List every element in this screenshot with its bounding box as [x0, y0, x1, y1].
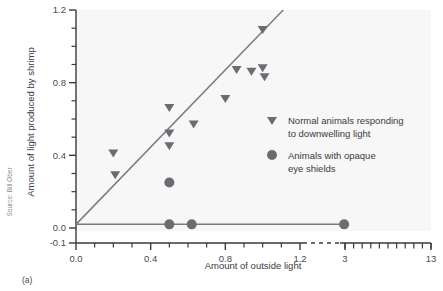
legend-label-line2: to downwelling light	[288, 128, 371, 139]
y-axis-tick-label: 0.4	[53, 150, 66, 161]
legend-label-line1: Normal animals responding	[288, 115, 404, 126]
x-axis-title: Amount of outside light	[205, 260, 302, 271]
x-axis-tick-label: 13	[426, 253, 437, 264]
legend-label-line1: Animals with opaque	[288, 150, 376, 161]
y-axis-tick-label: 0.0	[53, 222, 66, 233]
legend-label-line2: eye shields	[288, 163, 336, 174]
data-point-circle	[339, 219, 349, 229]
y-axis-tick-label: -0.1	[50, 237, 66, 248]
y-axis-tick-label: 0.8	[53, 77, 66, 88]
data-point-circle	[164, 219, 174, 229]
y-axis-title: Amount of light produced by shrimp	[25, 47, 36, 196]
scatter-plot: -0.10.00.40.81.20.00.40.81.2313 Amount o…	[0, 0, 443, 291]
x-axis-tick-label: 3	[342, 253, 347, 264]
y-axis-tick-label: 1.2	[53, 4, 66, 15]
figure-container: -0.10.00.40.81.20.00.40.81.2313 Amount o…	[0, 0, 443, 291]
x-axis-tick-label: 0.4	[144, 253, 157, 264]
source-credit: Source: Bill Ober	[6, 167, 13, 217]
data-point-circle	[164, 178, 174, 188]
circle-icon	[267, 150, 277, 160]
x-axis-tick-label: 0.0	[69, 253, 82, 264]
data-point-circle	[187, 219, 197, 229]
panel-label: (a)	[22, 275, 33, 285]
